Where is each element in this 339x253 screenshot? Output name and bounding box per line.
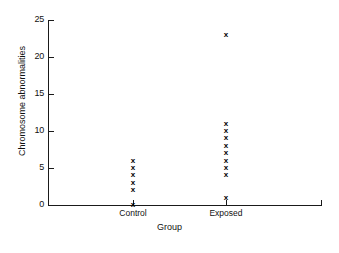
data-point: x bbox=[224, 127, 228, 135]
y-tick-5 bbox=[49, 168, 54, 169]
x-tick-label-exposed: Exposed bbox=[191, 208, 261, 218]
data-point: x bbox=[224, 171, 228, 179]
y-tick-20 bbox=[49, 57, 54, 58]
y-axis-line bbox=[48, 20, 49, 206]
y-tick-10 bbox=[49, 131, 54, 132]
x-tick-label-control: Control bbox=[98, 208, 168, 218]
data-point: x bbox=[131, 164, 135, 172]
data-point: x bbox=[224, 194, 228, 202]
data-point: x bbox=[131, 201, 135, 209]
x-axis-line bbox=[48, 205, 321, 206]
y-tick-15 bbox=[49, 94, 54, 95]
y-tick-25 bbox=[49, 20, 54, 21]
scatter-chart: 0510152025 ControlExposed xxxxxxxxxxxxxx… bbox=[0, 0, 339, 253]
data-point: x bbox=[131, 179, 135, 187]
data-point: x bbox=[131, 186, 135, 194]
y-axis-title: Chromosome abnormalities bbox=[17, 11, 27, 191]
data-point: x bbox=[224, 31, 228, 39]
x-axis-title: Group bbox=[0, 222, 339, 232]
data-point: x bbox=[224, 157, 228, 165]
data-point: x bbox=[224, 134, 228, 142]
data-point: x bbox=[224, 120, 228, 128]
y-tick-0 bbox=[49, 205, 54, 206]
data-point: x bbox=[131, 157, 135, 165]
data-point: x bbox=[131, 171, 135, 179]
y-tick-label-0: 0 bbox=[20, 199, 44, 209]
data-point: x bbox=[224, 149, 228, 157]
x-axis-end-cap bbox=[321, 200, 322, 206]
data-point: x bbox=[224, 164, 228, 172]
data-point: x bbox=[224, 142, 228, 150]
